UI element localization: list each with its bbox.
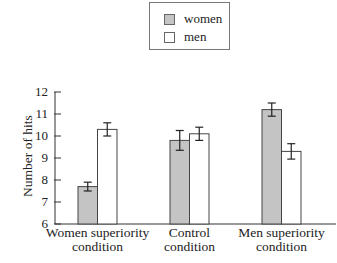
bar-women [262,110,282,224]
x-category-label: Men superioritycondition [217,226,337,254]
bar-women [170,140,190,224]
bar-men [190,134,210,224]
y-tick-label: 11 [28,106,48,122]
bar-chart [0,0,337,263]
bar-men [282,151,302,224]
bar-women [78,187,98,224]
y-tick-label: 9 [28,150,48,166]
y-tick-label: 10 [28,128,48,144]
bar-men [98,129,118,224]
y-tick-label: 7 [28,194,48,210]
y-tick-label: 8 [28,172,48,188]
y-tick-label: 12 [28,84,48,100]
